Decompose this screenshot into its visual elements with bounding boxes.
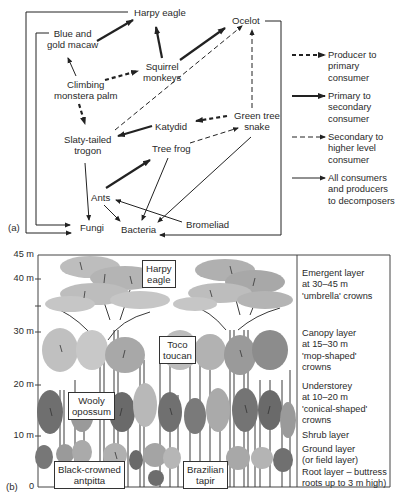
layer-text: at 30–45 m — [302, 279, 372, 290]
layer-text: 'umbrella' crowns — [302, 291, 372, 302]
layer-text: at 10–20 m — [302, 392, 367, 403]
layer-emergent: Emergent layer at 30–45 m 'umbrella' cro… — [302, 268, 372, 302]
layer-text: Ground layer — [302, 444, 387, 455]
layer-text: crowns — [302, 415, 367, 426]
layer-text: crowns — [302, 362, 357, 373]
animal-text: eagle — [146, 274, 172, 285]
animal-text: opossum — [72, 406, 111, 417]
animal-text: Wooly — [72, 395, 111, 406]
y-tick-20: 20 m — [4, 379, 34, 389]
layer-text: Canopy layer — [302, 328, 357, 339]
y-tick-10: 10 m — [4, 430, 34, 440]
animal-text: Harpy — [146, 263, 172, 274]
animal-text: antpitta — [58, 475, 121, 486]
layer-text: Shrub layer — [302, 430, 349, 441]
layer-shrub: Shrub layer — [302, 430, 349, 441]
animal-black-crowned-antpitta: Black-crowned antpitta — [54, 461, 125, 489]
layer-text: Root layer – buttress — [302, 467, 387, 478]
layer-ground: Ground layer (or field layer) Root layer… — [302, 444, 387, 489]
animal-wooly-opossum: Wooly opossum — [68, 392, 115, 420]
layer-text: at 15–30 m — [302, 339, 357, 350]
animal-text: tapir — [187, 475, 224, 486]
animal-text: toucan — [163, 350, 192, 361]
layer-text: 'conical-shaped' — [302, 404, 367, 415]
y-tick-30: 30 m — [4, 326, 34, 336]
layer-understorey: Understorey at 10–20 m 'conical-shaped' … — [302, 381, 367, 426]
y-tick-45: 45 m — [4, 249, 34, 259]
animal-brazilian-tapir: Brazilian tapir — [183, 461, 228, 489]
animal-harpy-eagle: Harpy eagle — [142, 260, 176, 288]
layer-text: Emergent layer — [302, 268, 372, 279]
y-tick-40: 40 m — [4, 273, 34, 283]
layer-text: (or field layer) — [302, 455, 387, 466]
animal-text: Black-crowned — [58, 464, 121, 475]
layer-text: roots up to 3 m high) — [302, 478, 387, 489]
layer-text: 'mop-shaped' — [302, 351, 357, 362]
animal-text: Toco — [163, 339, 192, 350]
panel-b-tag: (b) — [6, 481, 18, 492]
layer-text: Understorey — [302, 381, 367, 392]
animal-toco-toucan: Toco toucan — [159, 336, 196, 364]
animal-text: Brazilian — [187, 464, 224, 475]
layer-canopy: Canopy layer at 15–30 m 'mop-shaped' cro… — [302, 328, 357, 373]
